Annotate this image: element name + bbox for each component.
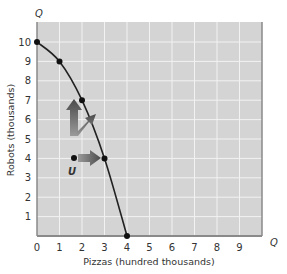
x-tick-label: 3	[101, 242, 107, 253]
x-tick-label: 1	[56, 242, 62, 253]
y-tick-label: 1	[25, 211, 31, 222]
x-axis-title: Pizzas (hundred thousands)	[83, 256, 214, 267]
y-tick-label: 6	[25, 114, 31, 125]
y-tick-label: 8	[25, 75, 31, 86]
y-tick-label: 3	[25, 172, 31, 183]
x-tick-label: 9	[236, 242, 242, 253]
point-u-label: U	[68, 166, 76, 177]
y-axis-q-label: Q	[35, 8, 43, 19]
ppf-point	[102, 155, 108, 161]
x-tick-label: 7	[191, 242, 197, 253]
y-tick-label: 10	[18, 37, 31, 48]
y-tick-label: 7	[25, 95, 31, 106]
y-axis-title: Robots (thousands)	[5, 84, 16, 176]
y-tick-label: 9	[25, 56, 31, 67]
y-tick-label: 4	[25, 153, 31, 164]
point-u	[71, 155, 77, 161]
x-tick-label: 4	[124, 242, 130, 253]
x-tick-labels: 0123456789	[34, 242, 243, 253]
ppf-point	[57, 58, 63, 64]
x-tick-label: 2	[79, 242, 85, 253]
x-tick-label: 5	[146, 242, 152, 253]
y-tick-label: 2	[25, 192, 31, 203]
y-tick-labels: 12345678910	[18, 37, 31, 223]
y-tick-label: 5	[25, 134, 31, 145]
ppf-point	[124, 233, 130, 239]
x-tick-label: 0	[34, 242, 40, 253]
ppf-point	[34, 39, 40, 45]
x-tick-label: 8	[214, 242, 220, 253]
x-axis-q-label: Q	[270, 237, 278, 248]
ppf-point	[79, 97, 85, 103]
x-tick-label: 6	[169, 242, 175, 253]
ppf-chart: U 0123456789 12345678910 Q Q Pizzas (hun…	[0, 0, 287, 274]
